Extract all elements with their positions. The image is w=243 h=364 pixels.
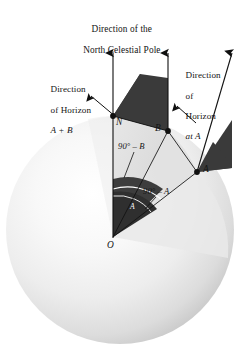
title-line-2: North Celestial Pole bbox=[83, 45, 160, 55]
horizon-ab-line-2: of Horizon bbox=[51, 105, 92, 115]
label-wedge-angle-a: A bbox=[130, 203, 135, 212]
celestial-sphere-diagram: Direction of the North Celestial Pole Di… bbox=[0, 0, 243, 364]
label-angle-90-minus-b: 90° – B bbox=[118, 142, 145, 152]
label-point-o: O bbox=[107, 240, 114, 251]
horizon-a-line-4: at A bbox=[186, 131, 201, 141]
point-marker-b bbox=[165, 128, 171, 134]
horizon-a-line-3: Horizon bbox=[186, 111, 217, 121]
label-direction-of-horizon-ab: Direction of Horizon A + B bbox=[41, 74, 91, 145]
label-point-a: A bbox=[203, 164, 209, 175]
point-marker-a bbox=[194, 169, 200, 175]
label-angle-90-minus-a: 90° – A bbox=[143, 187, 169, 197]
title-line-1: Direction of the bbox=[92, 24, 152, 34]
horizon-ab-line-3: A + B bbox=[51, 125, 73, 135]
horizon-a-line-2: of bbox=[186, 91, 194, 101]
horizon-a-line-1: Direction bbox=[186, 70, 221, 80]
horizon-ab-line-1: Direction bbox=[51, 84, 86, 94]
label-point-n: N bbox=[116, 117, 122, 128]
title-north-celestial-pole: Direction of the North Celestial Pole bbox=[54, 14, 180, 66]
label-direction-of-horizon-at-a: Direction of Horizon at A bbox=[176, 60, 221, 152]
label-point-b: B bbox=[155, 123, 161, 134]
